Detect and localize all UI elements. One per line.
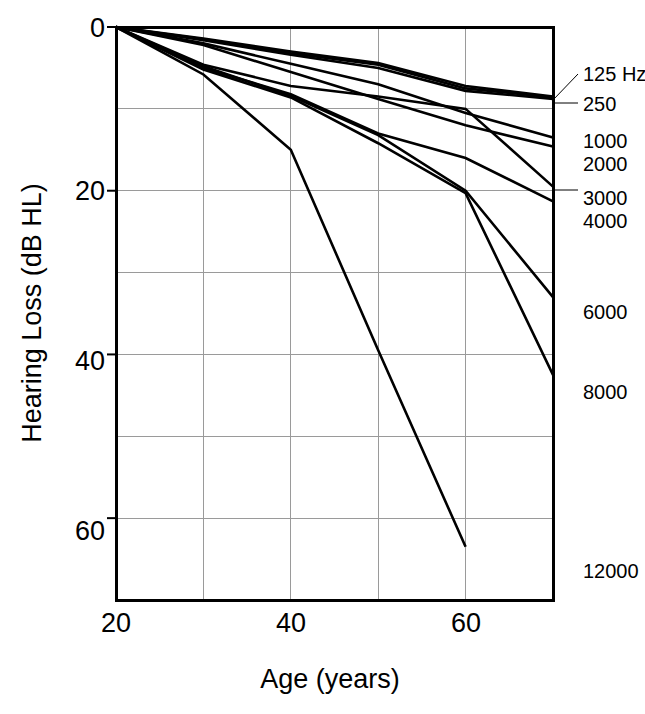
y-tick-label-60: 60: [75, 516, 105, 546]
x-axis-title: Age (years): [260, 664, 400, 694]
x-tick-label-60: 60: [451, 608, 481, 638]
series-label-8000: 8000: [583, 381, 628, 403]
y-tick-label-20: 20: [75, 176, 105, 206]
y-axis-title: Hearing Loss (dB HL): [17, 183, 47, 443]
series-label-2000: 2000: [583, 153, 628, 175]
series-label-6000: 6000: [583, 301, 628, 323]
y-tick-label-0: 0: [90, 13, 105, 43]
series-label-12000: 12000: [583, 560, 639, 582]
hearing-loss-line-chart: 0 20 40 60 20 40 60 Hearing Loss (dB HL)…: [0, 0, 645, 714]
x-tick-label-40: 40: [276, 608, 306, 638]
series-label-3000: 3000: [583, 187, 628, 209]
series-label-250: 250: [583, 93, 616, 115]
y-tick-label-40: 40: [75, 346, 105, 376]
series-label-125hz: 125 Hz: [583, 63, 645, 85]
series-label-4000: 4000: [583, 210, 628, 232]
chart-container: 0 20 40 60 20 40 60 Hearing Loss (dB HL)…: [0, 0, 645, 714]
series-label-1000: 1000: [583, 130, 628, 152]
x-tick-label-20: 20: [101, 608, 131, 638]
